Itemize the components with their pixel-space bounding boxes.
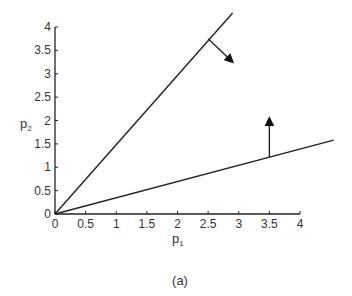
y-tick-label: 2.5: [34, 90, 51, 104]
y-axis-label: p2: [20, 116, 32, 133]
x-tick-label: 1.5: [139, 217, 156, 231]
x-tick-label: 2: [174, 217, 181, 231]
data-line: [55, 140, 334, 214]
data-lines: [55, 13, 334, 214]
x-tick-label: 3.5: [261, 217, 278, 231]
annotation-arrows: [208, 39, 269, 157]
y-tick-label: 2: [44, 114, 51, 128]
tick-labels: 00.511.522.533.5400.511.522.533.54: [34, 20, 303, 231]
x-tick-label: 2.5: [200, 217, 217, 231]
x-tick-label: 0.5: [77, 217, 94, 231]
arrow-icon: [208, 39, 233, 62]
chart: 00.511.522.533.5400.511.522.533.54 p1 p2…: [0, 0, 352, 296]
y-tick-label: 0: [44, 207, 51, 221]
data-line: [55, 13, 233, 214]
x-tick-label: 0: [52, 217, 59, 231]
y-tick-label: 0.5: [34, 184, 51, 198]
x-axis-label: p1: [172, 231, 184, 248]
x-tick-label: 4: [297, 217, 304, 231]
x-tick-label: 1: [113, 217, 120, 231]
y-tick-label: 3: [44, 67, 51, 81]
y-tick-label: 1: [44, 160, 51, 174]
y-tick-label: 4: [44, 20, 51, 34]
figure-caption: (a): [172, 273, 188, 288]
y-tick-label: 3.5: [34, 43, 51, 57]
y-tick-label: 1.5: [34, 137, 51, 151]
x-tick-label: 3: [235, 217, 242, 231]
axes: [55, 27, 300, 214]
